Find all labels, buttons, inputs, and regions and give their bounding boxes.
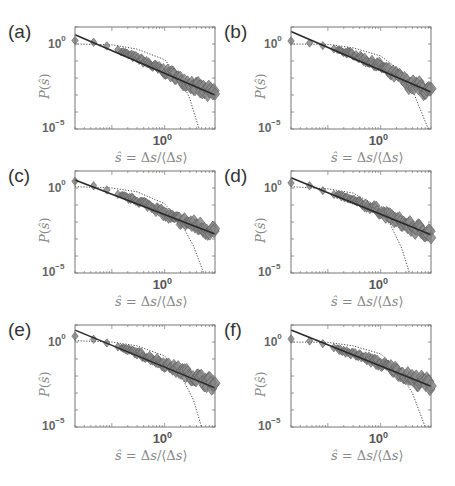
xtick-label-1e0: 100 [153,430,172,446]
xtick-exp: 0 [383,430,388,440]
ytick-label-1e0: 100 [48,36,66,51]
ytick-base: 10 [258,419,271,433]
x-axis-label: ŝ = Δs/⟨Δs⟩ [115,294,187,309]
ytick-exp: −5 [55,118,64,127]
ytick-base: 10 [48,37,61,51]
panel-label: (c) [8,165,30,187]
x-axis-label: ŝ = Δs/⟨Δs⟩ [331,150,403,165]
y-axis-label: P(ŝ) [37,73,52,99]
data-markers [72,36,220,101]
x-axis-label: ŝ = Δs/⟨Δs⟩ [115,150,187,165]
xtick-exp: 0 [383,276,388,286]
ytick-exp: 0 [277,332,281,341]
xtick-base: 10 [369,133,383,148]
ytick-base: 10 [258,121,271,135]
ytick-base: 10 [258,265,271,279]
plot-area [75,325,215,427]
ytick-base: 10 [48,335,61,349]
xtick-exp: 0 [383,132,388,142]
xtick-label-1e0: 100 [153,132,172,148]
ytick-label-1e0: 100 [264,334,282,349]
ytick-label-1e0: 100 [264,36,282,51]
ytick-label-1e-5: 10−5 [42,120,64,135]
ytick-exp: −5 [55,416,64,425]
xtick-label-1e0: 100 [153,276,172,292]
ytick-label-1e-5: 10−5 [258,418,280,433]
panel-label: (a) [8,21,31,43]
y-axis-label: P(ŝ) [253,217,268,243]
xtick-base: 10 [153,133,167,148]
power-law-fit-line [75,35,215,95]
x-axis-label: ŝ = Δs/⟨Δs⟩ [331,448,403,463]
ytick-label-1e-5: 10−5 [258,120,280,135]
xtick-exp: 0 [167,430,172,440]
xtick-base: 10 [153,431,167,446]
power-law-fit-line [75,180,215,234]
x-axis-label: ŝ = Δs/⟨Δs⟩ [331,294,403,309]
panel-label: (e) [8,319,31,341]
panel-label: (f) [224,319,242,341]
plot-area [75,27,215,129]
ytick-exp: 0 [61,332,65,341]
ytick-exp: 0 [277,178,281,187]
ytick-label-1e0: 100 [48,180,66,195]
ytick-base: 10 [264,181,277,195]
data-markers [288,37,436,101]
plot-area [75,171,215,273]
panel-label: (d) [224,165,247,187]
ytick-label-1e-5: 10−5 [42,418,64,433]
ytick-base: 10 [264,335,277,349]
xtick-label-1e0: 100 [369,276,388,292]
ytick-exp: −5 [271,118,280,127]
ytick-exp: 0 [61,178,65,187]
panel-label: (b) [224,21,247,43]
ytick-label-1e-5: 10−5 [42,264,64,279]
ytick-exp: −5 [271,416,280,425]
power-law-fit-line [291,178,431,235]
xtick-base: 10 [369,277,383,292]
ytick-base: 10 [48,181,61,195]
xtick-label-1e0: 100 [369,430,388,446]
plot-area [291,27,431,129]
power-law-fit-line [291,330,431,386]
data-markers [288,335,437,396]
ytick-exp: −5 [271,262,280,271]
power-law-fit-line [75,330,215,388]
y-axis-label: P(ŝ) [253,73,268,99]
ytick-base: 10 [264,37,277,51]
xtick-exp: 0 [167,276,172,286]
data-markers [288,179,436,244]
xtick-label-1e0: 100 [369,132,388,148]
ytick-base: 10 [42,419,55,433]
ytick-label-1e-5: 10−5 [258,264,280,279]
power-law-fit-line [291,31,431,92]
ytick-base: 10 [42,121,55,135]
y-axis-label: P(ŝ) [37,371,52,397]
y-axis-label: P(ŝ) [37,217,52,243]
ytick-label-1e0: 100 [264,180,282,195]
ytick-label-1e0: 100 [48,334,66,349]
xtick-base: 10 [369,431,383,446]
x-axis-label: ŝ = Δs/⟨Δs⟩ [115,448,187,463]
xtick-base: 10 [153,277,167,292]
ytick-base: 10 [42,265,55,279]
ytick-exp: 0 [61,34,65,43]
xtick-exp: 0 [167,132,172,142]
y-axis-label: P(ŝ) [253,371,268,397]
ytick-exp: −5 [55,262,64,271]
ytick-exp: 0 [277,34,281,43]
plot-area [291,171,431,273]
data-markers [72,332,220,395]
plot-area [291,325,431,427]
